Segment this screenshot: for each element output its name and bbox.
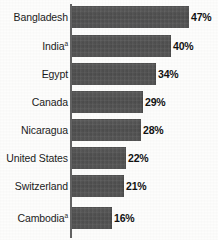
footnote-marker: a xyxy=(64,212,68,219)
bar xyxy=(72,6,189,28)
value-label: 47% xyxy=(191,11,211,23)
category-label: Bangladesh xyxy=(14,11,68,23)
category-label: Switzerland xyxy=(15,180,68,192)
category-label: Canada xyxy=(32,96,68,108)
category-label: Indiaa xyxy=(42,40,68,53)
bar xyxy=(72,63,156,85)
chart-row: Switzerland 21% xyxy=(0,175,218,197)
chart-row: Nicaragua 28% xyxy=(0,119,218,141)
category-label: Cambodiaa xyxy=(17,212,68,225)
category-label: Nicaragua xyxy=(21,124,68,136)
value-label: 29% xyxy=(145,96,165,108)
bar xyxy=(72,147,126,169)
chart-row: Indiaa 40% xyxy=(0,35,218,57)
footnote-marker: a xyxy=(64,40,68,47)
chart-row: Cambodiaa 16% xyxy=(0,207,218,229)
chart-row: Canada 29% xyxy=(0,91,218,113)
value-label: 16% xyxy=(114,212,134,224)
chart-row: Bangladesh 47% xyxy=(0,6,218,28)
category-label: Egypt xyxy=(42,68,68,80)
bar-chart: Bangladesh 47% Indiaa 40% Egypt 34% Cana… xyxy=(0,0,218,240)
value-label: 40% xyxy=(173,40,193,52)
bar xyxy=(72,91,143,113)
value-label: 21% xyxy=(126,180,146,192)
bar xyxy=(72,175,124,197)
value-label: 28% xyxy=(143,124,163,136)
category-label: United States xyxy=(6,152,68,164)
y-axis-line xyxy=(70,4,72,238)
plot-area: Bangladesh 47% Indiaa 40% Egypt 34% Cana… xyxy=(0,0,218,240)
value-label: 22% xyxy=(128,152,148,164)
bar xyxy=(72,207,112,229)
bar xyxy=(72,35,171,57)
value-label: 34% xyxy=(158,68,178,80)
chart-row: United States 22% xyxy=(0,147,218,169)
bar xyxy=(72,119,141,141)
chart-row: Egypt 34% xyxy=(0,63,218,85)
